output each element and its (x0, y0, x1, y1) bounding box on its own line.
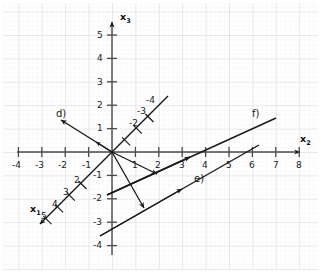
series-label-f: f) (252, 109, 259, 119)
tick-x1-2: 2 (74, 176, 80, 185)
series-label-d: d) (56, 109, 66, 119)
series-label-e: e) (194, 174, 204, 184)
tick-x2-5: 5 (226, 161, 232, 170)
tick-x2-7: 7 (273, 161, 279, 170)
tick-x1--4: -4 (146, 96, 155, 105)
tick-x2-2: 2 (155, 161, 161, 170)
tick-x3--4: -4 (93, 241, 102, 250)
tick-x1-3: 3 (63, 188, 69, 197)
tick-x2-3: 3 (179, 161, 185, 170)
axis-label-x1: x1 (30, 204, 41, 216)
coordinate-plot (0, 0, 321, 273)
tick-x1-4: 4 (52, 200, 58, 209)
tick-x3-2: 2 (97, 101, 103, 110)
axis-label-x2: x2 (300, 134, 311, 146)
tick-x1--3: -3 (137, 107, 146, 116)
tick-x1-5: 5 (41, 212, 47, 221)
tick-x1--2: -2 (129, 119, 138, 128)
tick-x2-8: 8 (296, 161, 302, 170)
figure-canvas: x2 x3 x1 -4 -3 -2 -1 1 2 3 4 5 6 7 8 5 4… (0, 0, 321, 273)
tick-x3-4: 4 (97, 54, 103, 63)
tick-x3--3: -3 (93, 218, 102, 227)
grid-background (0, 0, 321, 273)
tick-x3-3: 3 (97, 78, 103, 87)
tick-x3-5: 5 (97, 31, 103, 40)
tick-x2-6: 6 (249, 161, 255, 170)
tick-x2-1: 1 (132, 161, 138, 170)
tick-x2--4: -4 (12, 161, 21, 170)
tick-x2--3: -3 (35, 161, 44, 170)
tick-x2--2: -2 (58, 161, 67, 170)
axis-label-x3: x3 (120, 12, 131, 24)
tick-x3-1: 1 (97, 124, 103, 133)
tick-x3--1: -1 (93, 171, 102, 180)
tick-x2--1: -1 (82, 161, 91, 170)
tick-x3--2: -2 (93, 194, 102, 203)
tick-x2-4: 4 (202, 161, 208, 170)
